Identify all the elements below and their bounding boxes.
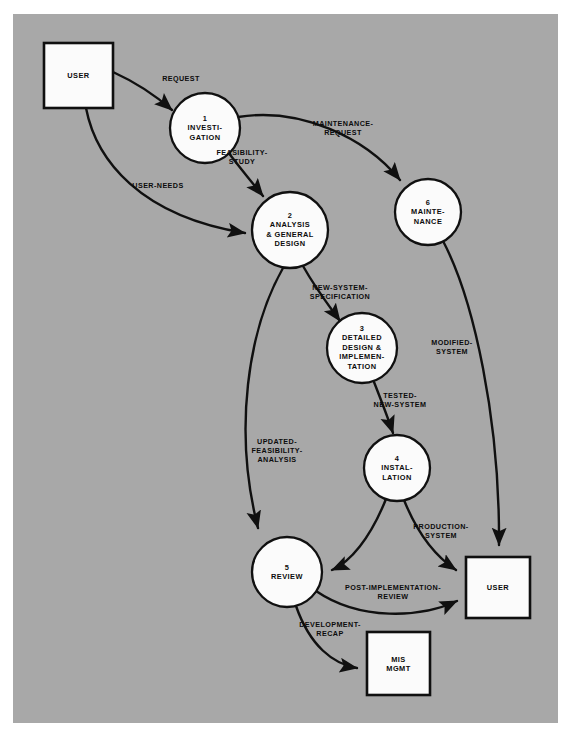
flow-arrow-tested-new-system (374, 382, 393, 433)
node-process-2[interactable] (252, 192, 328, 268)
node-process-6[interactable] (395, 179, 461, 245)
flow-arrow-new-system-specification (303, 266, 340, 321)
flow-arrow-post-implementation-review (316, 591, 457, 614)
flow-arrow-modified-system (443, 241, 499, 545)
node-user-left[interactable] (44, 43, 113, 108)
node-user-right[interactable] (466, 557, 530, 618)
diagram-vector-layer (0, 0, 575, 741)
node-process-5[interactable] (252, 537, 322, 607)
flow-arrow-development-recap (296, 606, 357, 668)
flow-arrow-installation-to-review (332, 499, 386, 570)
flow-arrow-maintenance-request (238, 115, 400, 180)
node-process-4[interactable] (364, 435, 430, 501)
flow-arrow-feasibility-study (228, 152, 263, 196)
flow-arrow-production-system (404, 500, 456, 570)
node-mis-mgmt[interactable] (367, 632, 430, 695)
flow-arrow-updated-feasibility-analysis (246, 268, 283, 528)
flow-arrow-request (113, 72, 172, 110)
node-process-1[interactable] (170, 93, 240, 163)
node-process-3[interactable] (327, 313, 397, 383)
dfd-diagram-canvas: USER 1 INVESTI- GATION 2 ANALYSIS & GENE… (0, 0, 575, 741)
